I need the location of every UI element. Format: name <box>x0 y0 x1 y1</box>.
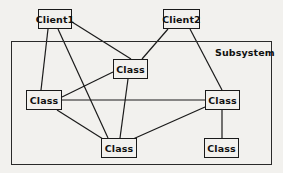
node-class_left[interactable]: Class <box>26 90 62 110</box>
node-label: Class <box>207 143 235 154</box>
subsystem-diagram: Subsystem Client1Client2ClassClassClassC… <box>0 0 283 173</box>
node-label: Client1 <box>36 14 75 25</box>
node-label: Class <box>208 95 236 106</box>
node-class_br[interactable]: Class <box>204 138 239 158</box>
node-label: Class <box>105 143 133 154</box>
node-client2[interactable]: Client2 <box>163 9 200 29</box>
node-label: Client2 <box>162 14 201 25</box>
node-class_right[interactable]: Class <box>205 90 240 110</box>
node-class_bottom[interactable]: Class <box>101 138 137 158</box>
node-label: Class <box>116 64 144 75</box>
node-label: Class <box>30 95 58 106</box>
node-class_top[interactable]: Class <box>113 59 148 79</box>
node-client1[interactable]: Client1 <box>38 9 72 29</box>
subsystem-label: Subsystem <box>215 47 275 58</box>
